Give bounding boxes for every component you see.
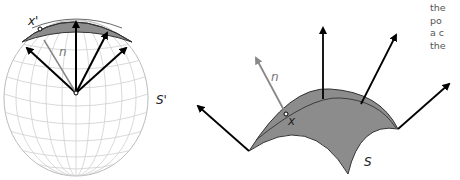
caption-line: the — [430, 2, 446, 15]
caption-line: the — [430, 40, 446, 53]
caption-line: po — [430, 15, 446, 28]
label-n-surface: n — [271, 70, 279, 84]
center-point — [74, 91, 78, 95]
label-sphere-S-prime: S' — [156, 93, 167, 107]
point-x-prime — [38, 27, 42, 31]
gauss-map-diagram: x' n S' x n S — [0, 0, 460, 180]
label-surface-S: S — [364, 155, 372, 169]
surface-patch — [249, 89, 398, 174]
label-x: x — [287, 114, 296, 128]
label-n-sphere: n — [59, 45, 67, 59]
label-x-prime: x' — [27, 14, 38, 28]
cropped-caption-text: thepoa cthe — [430, 2, 446, 52]
normal-n-surface — [256, 58, 286, 114]
caption-line: a c — [430, 27, 446, 40]
